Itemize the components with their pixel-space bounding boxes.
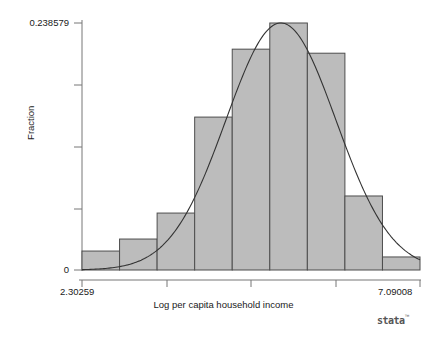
histogram-bar	[345, 196, 383, 270]
y-axis-ticks	[74, 23, 82, 270]
y-axis-max-tick-label: 0.238579	[6, 18, 69, 28]
x-axis-ticks	[82, 280, 420, 287]
x-axis-min-tick-label: 2.30259	[60, 287, 94, 297]
histogram-bar	[232, 49, 270, 270]
x-axis-title: Log per capita household income	[0, 300, 447, 310]
y-axis-zero-tick-label: 0	[6, 265, 69, 275]
histogram-bar	[382, 257, 420, 270]
histogram-bar	[307, 53, 345, 270]
histogram-bar	[157, 213, 195, 270]
stata-logo-text: stata	[377, 315, 405, 326]
histogram-bars	[82, 23, 420, 270]
y-axis-title: Fraction	[26, 88, 36, 158]
stata-logo-trademark: ™	[405, 313, 410, 319]
stata-logo: stata™	[377, 310, 425, 323]
chart-figure: 0.238579 0 2.30259 7.09008 Fraction Log …	[0, 0, 447, 340]
histogram-bar	[270, 23, 308, 270]
x-axis-max-tick-label: 7.09008	[378, 287, 412, 297]
histogram-bar	[195, 117, 233, 270]
